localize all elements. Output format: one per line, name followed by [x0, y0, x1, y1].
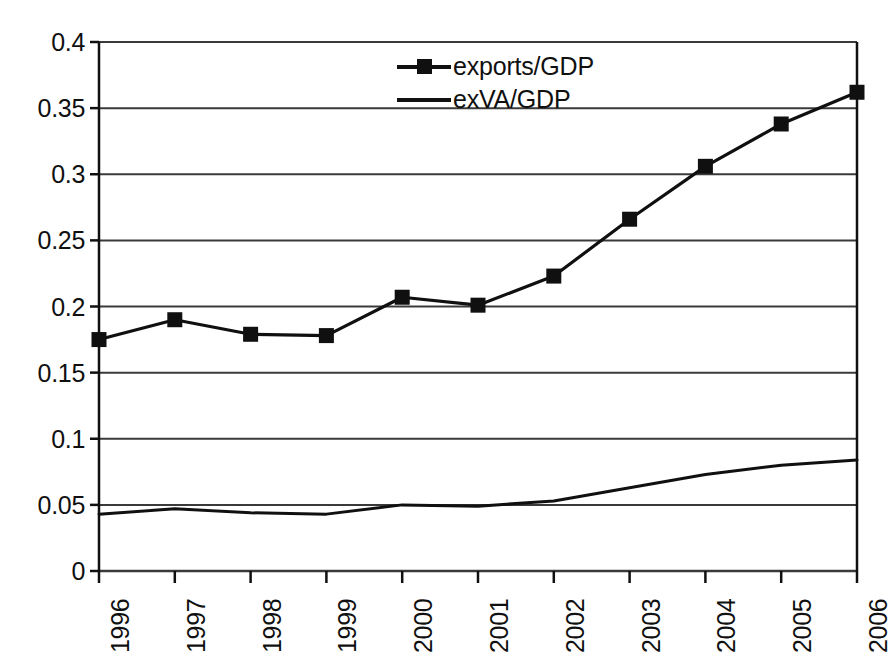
y-axis-tick-label: 0.3 [51, 162, 85, 187]
data-point-marker [319, 328, 334, 343]
x-axis-tick-marks [99, 571, 857, 583]
x-axis-tick-label: 2005 [790, 599, 815, 653]
data-point-marker [698, 159, 713, 174]
data-point-marker [243, 327, 258, 342]
y-axis-tick-label: 0.35 [38, 96, 85, 121]
x-axis-tick-label: 1996 [108, 599, 133, 653]
x-axis-tick-label: 1998 [260, 599, 285, 653]
legend-key-plain-line [395, 88, 453, 112]
data-point-marker [92, 332, 107, 347]
x-axis-tick-label: 2003 [639, 599, 664, 653]
x-axis-tick-label: 1997 [184, 599, 209, 653]
chart-figure: 0.40.350.30.250.20.150.10.050 1996199719… [0, 0, 894, 664]
y-axis-tick-label: 0.15 [38, 360, 85, 385]
series-line-exva-gdp [99, 460, 857, 514]
data-point-marker [167, 312, 182, 327]
data-point-marker [850, 85, 865, 100]
y-axis-tick-label: 0.4 [51, 30, 85, 55]
chart-legend: exports/GDP exVA/GDP [395, 50, 645, 116]
x-axis-tick-label: 2002 [563, 599, 588, 653]
data-series-layer [92, 85, 865, 514]
x-axis-tick-label: 2006 [866, 599, 891, 653]
data-point-marker [622, 212, 637, 227]
data-point-marker [395, 290, 410, 305]
x-axis-tick-label: 1999 [335, 599, 360, 653]
data-point-marker [546, 269, 561, 284]
y-axis-tick-label: 0 [71, 559, 85, 584]
x-axis-tick-label: 2000 [411, 599, 436, 653]
legend-item-exports-gdp: exports/GDP [395, 50, 645, 83]
x-axis-tick-label: 2004 [714, 599, 739, 653]
x-axis-tick-label: 2001 [487, 599, 512, 653]
data-point-marker [774, 116, 789, 131]
y-axis-tick-label: 0.2 [51, 294, 85, 319]
y-axis-tick-label: 0.25 [38, 228, 85, 253]
legend-label-exports-gdp: exports/GDP [453, 54, 594, 79]
legend-key-line-with-square-marker [395, 55, 453, 79]
data-point-marker [471, 298, 486, 313]
legend-item-exva-gdp: exVA/GDP [395, 83, 645, 116]
legend-label-exva-gdp: exVA/GDP [453, 87, 570, 112]
y-axis-tick-label: 0.05 [38, 492, 85, 517]
y-axis-tick-label: 0.1 [51, 426, 85, 451]
